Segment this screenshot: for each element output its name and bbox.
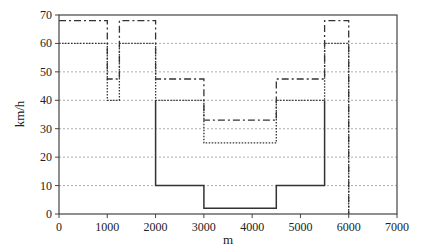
x-tick-label: 6000: [337, 220, 361, 234]
x-tick-label: 1000: [95, 220, 119, 234]
y-tick-label: 20: [40, 150, 52, 164]
y-tick-label: 60: [40, 36, 52, 50]
y-tick-label: 30: [40, 122, 52, 136]
x-axis-ticks: 01000200030004000500060007000: [56, 214, 409, 234]
data-series: [59, 21, 349, 214]
x-tick-label: 0: [56, 220, 62, 234]
x-tick-label: 2000: [144, 220, 168, 234]
y-axis-ticks: 010203040506070: [40, 8, 59, 221]
y-axis-label: km/h: [12, 100, 27, 127]
y-tick-label: 0: [46, 207, 52, 221]
y-tick-label: 10: [40, 179, 52, 193]
speed-profile-chart: 01000200030004000500060007000 0102030405…: [0, 0, 428, 252]
grid-lines: [59, 43, 397, 185]
x-tick-label: 5000: [288, 220, 312, 234]
x-tick-label: 3000: [192, 220, 216, 234]
y-tick-label: 50: [40, 65, 52, 79]
y-tick-label: 40: [40, 93, 52, 107]
series-solid: [156, 100, 325, 208]
y-tick-label: 70: [40, 8, 52, 22]
plot-frame: [59, 15, 397, 214]
x-axis-label: m: [223, 232, 233, 247]
x-tick-label: 7000: [385, 220, 409, 234]
x-tick-label: 4000: [240, 220, 264, 234]
